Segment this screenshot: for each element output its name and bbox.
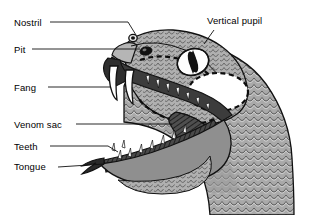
label-tongue: Tongue xyxy=(14,162,46,172)
snake-anatomy-figure: Nostril Pit Fang Venom sac Teeth Tongue … xyxy=(0,0,317,215)
leader-teeth xyxy=(50,146,118,152)
label-vertical-pupil: Vertical pupil xyxy=(207,16,262,26)
leader-nostril xyxy=(50,22,136,35)
label-pit: Pit xyxy=(14,45,25,55)
nostril-feature xyxy=(129,34,137,41)
label-teeth: Teeth xyxy=(14,142,38,152)
tongue-feature xyxy=(82,158,104,174)
snake-head-illustration xyxy=(0,0,317,215)
label-nostril: Nostril xyxy=(14,18,42,28)
label-fang: Fang xyxy=(14,83,36,93)
label-venom-sac: Venom sac xyxy=(14,120,62,130)
